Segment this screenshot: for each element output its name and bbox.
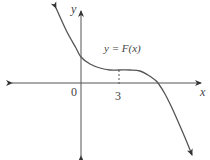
tick-label-3: 3 [115, 90, 121, 102]
origin-label: 0 [71, 86, 77, 98]
curve-F [56, 8, 192, 155]
function-graph [0, 0, 210, 160]
x-axis-label: x [200, 86, 205, 98]
curve-label: y = F(x) [104, 43, 141, 54]
y-axis-label: y [71, 3, 76, 15]
